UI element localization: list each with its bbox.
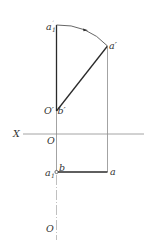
label-o-prime: O′	[44, 105, 55, 116]
rotation-arc	[57, 25, 108, 46]
line-oprime-aprime	[57, 46, 108, 111]
label-o-bottom: O	[46, 223, 54, 234]
label-a1-sub: 1	[51, 172, 55, 179]
point-a1-b-marker	[55, 170, 58, 173]
label-b-prime: b′	[58, 105, 67, 116]
label-origin-o: O	[47, 135, 55, 146]
label-x-axis: X	[12, 128, 21, 139]
label-a1-prime-sub: 1	[52, 26, 56, 33]
label-a1-prime-mark: ′	[53, 19, 55, 26]
projection-diagram: a 1 ′ a′ O′ b′ X O b a 1 a O	[0, 0, 144, 249]
label-a: a	[110, 166, 116, 177]
label-a-prime: a′	[109, 40, 118, 51]
label-b: b	[59, 162, 65, 173]
